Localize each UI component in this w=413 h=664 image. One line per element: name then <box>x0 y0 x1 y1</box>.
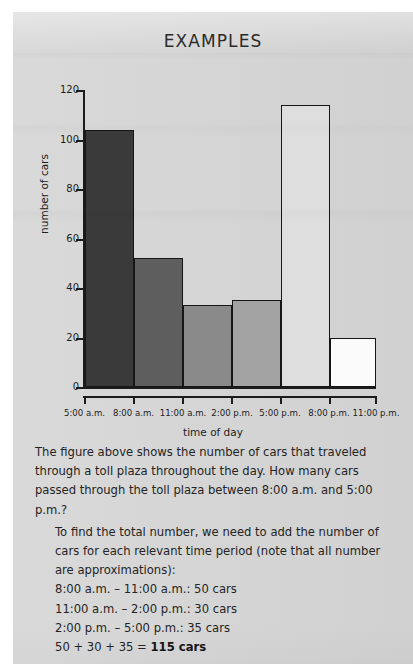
y-tick-label-120: 120 <box>45 84 79 95</box>
solution-intro: To find the total number, we need to add… <box>55 523 397 581</box>
y-tick-mark-120 <box>76 90 83 92</box>
solution-block: To find the total number, we need to add… <box>55 523 397 657</box>
bar-5pm-8pm <box>281 105 330 387</box>
x-axis-tick-rail <box>83 396 376 398</box>
y-tick-mark-100 <box>76 140 83 142</box>
solution-total: 50 + 30 + 35 = 115 cars <box>55 638 397 657</box>
solution-line-1: 8:00 a.m. – 11:00 a.m.: 50 cars <box>55 580 397 599</box>
total-answer: 115 cars <box>151 640 207 654</box>
bar-2pm-5pm <box>232 300 281 387</box>
y-tick-mark-0 <box>76 387 83 389</box>
x-tick-mark-3 <box>231 396 233 404</box>
page: EXAMPLES number of cars 120 100 80 60 40… <box>0 0 413 664</box>
total-prefix: 50 + 30 + 35 = <box>55 640 151 654</box>
bar-chart: number of cars 120 100 80 60 40 20 0 <box>13 12 413 432</box>
question-text: The figure above shows the number of car… <box>35 443 397 520</box>
bar-11am-2pm <box>183 305 232 387</box>
y-tick-mark-20 <box>76 338 83 340</box>
y-tick-label-80: 80 <box>45 183 79 194</box>
bar-8am-11am <box>134 258 183 387</box>
x-tick-mark-0 <box>84 396 86 404</box>
solution-line-3: 2:00 p.m. – 5:00 p.m.: 35 cars <box>55 619 397 638</box>
x-tick-mark-2 <box>182 396 184 404</box>
x-axis-label: time of day <box>13 426 413 438</box>
x-tick-mark-4 <box>280 396 282 404</box>
scanned-page-panel: EXAMPLES number of cars 120 100 80 60 40… <box>13 12 413 664</box>
x-tick-mark-6 <box>375 396 377 404</box>
x-tick-label-5pm: 5:00 p.m. <box>253 408 307 418</box>
prose-block: The figure above shows the number of car… <box>35 443 397 657</box>
y-tick-label-40: 40 <box>45 282 79 293</box>
bar-5am-8am <box>85 130 134 387</box>
y-tick-label-60: 60 <box>45 233 79 244</box>
y-tick-label-20: 20 <box>45 332 79 343</box>
x-tick-label-2pm: 2:00 p.m. <box>205 408 259 418</box>
x-tick-label-11pm: 11:00 p.m. <box>346 408 406 418</box>
y-tick-mark-80 <box>76 189 83 191</box>
y-tick-label-100: 100 <box>45 134 79 145</box>
x-axis-line <box>83 387 376 389</box>
x-tick-mark-1 <box>133 396 135 404</box>
x-tick-label-11am: 11:00 a.m. <box>153 408 213 418</box>
y-tick-mark-60 <box>76 239 83 241</box>
y-tick-label-0: 0 <box>45 381 79 392</box>
y-tick-mark-40 <box>76 288 83 290</box>
bar-8pm-11pm <box>330 338 376 387</box>
solution-line-2: 11:00 a.m. – 2:00 p.m.: 30 cars <box>55 600 397 619</box>
x-tick-mark-5 <box>329 396 331 404</box>
